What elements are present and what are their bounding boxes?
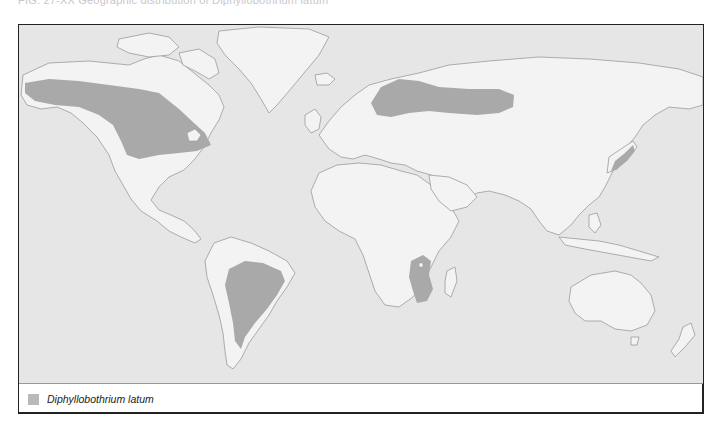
landmass-arctic-islands xyxy=(117,33,179,57)
landmass-indonesia xyxy=(559,237,659,261)
landmass-new-zealand xyxy=(671,323,695,357)
lake-victoria xyxy=(419,263,423,267)
world-map xyxy=(19,25,703,384)
legend-label: Diphyllobothrium latum xyxy=(47,393,154,405)
landmass-iceland xyxy=(315,73,335,85)
figure-caption: FIG. 27-XX Geographic distribution of Di… xyxy=(18,0,328,6)
landmass-tasmania xyxy=(631,337,639,345)
landmass-philippines xyxy=(589,213,601,233)
world-map-svg xyxy=(19,25,703,383)
map-legend: Diphyllobothrium latum xyxy=(28,391,154,407)
landmass-madagascar xyxy=(445,267,457,297)
legend-swatch xyxy=(28,394,39,405)
map-figure-frame: Diphyllobothrium latum xyxy=(18,24,704,414)
landmass-australia xyxy=(569,271,655,331)
landmass-british-isles xyxy=(305,109,321,133)
continents xyxy=(21,27,703,369)
landmass-greenland xyxy=(217,27,329,113)
